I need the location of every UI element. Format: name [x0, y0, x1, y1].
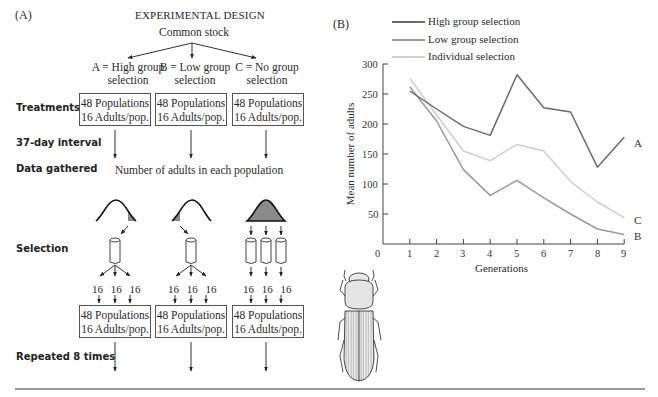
flour-beetle-illustration — [0, 0, 658, 397]
bottom-rule-divider — [15, 388, 645, 390]
beetle-icon — [338, 270, 381, 381]
